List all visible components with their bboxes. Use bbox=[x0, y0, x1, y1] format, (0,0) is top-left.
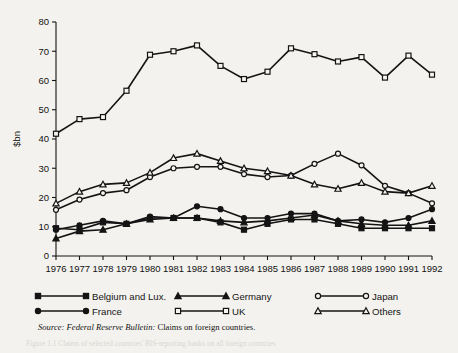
data-point-open-triangle bbox=[363, 308, 369, 314]
y-tick-label: 60 bbox=[38, 75, 49, 86]
source-note-rest: Claims on foreign countries. bbox=[157, 322, 255, 332]
legend-item-japan[interactable]: Japan bbox=[315, 291, 398, 302]
x-tick-label: 1984 bbox=[233, 263, 254, 274]
source-note-prefix: Source: bbox=[38, 322, 67, 332]
x-tick-label: 1987 bbox=[304, 263, 325, 274]
data-point-open-triangle bbox=[170, 155, 176, 161]
data-point-open-circle bbox=[336, 151, 341, 156]
data-point-open-circle bbox=[195, 164, 200, 169]
data-point-open-triangle bbox=[358, 180, 364, 186]
data-point-filled-triangle bbox=[335, 218, 341, 224]
data-point-open-square bbox=[101, 115, 106, 120]
data-point-open-circle bbox=[359, 163, 364, 168]
x-tick-label: 1979 bbox=[116, 263, 137, 274]
x-tick-label: 1990 bbox=[374, 263, 395, 274]
data-point-open-square bbox=[430, 72, 435, 77]
series-japan bbox=[54, 151, 435, 212]
legend-label: Belgium and Lux. bbox=[92, 291, 166, 302]
data-point-open-triangle bbox=[311, 181, 317, 187]
data-point-filled-square bbox=[35, 293, 40, 298]
y-tick-label: 40 bbox=[38, 133, 49, 144]
series-line bbox=[56, 154, 432, 210]
data-point-open-square bbox=[383, 75, 388, 80]
legend-label: Japan bbox=[372, 291, 398, 302]
legend-label: Others bbox=[372, 306, 401, 317]
y-tick-label: 70 bbox=[38, 46, 49, 57]
x-tick-label: 1976 bbox=[45, 263, 66, 274]
y-tick-label: 30 bbox=[38, 163, 49, 174]
data-point-open-square bbox=[54, 131, 59, 136]
data-point-open-circle bbox=[363, 293, 368, 298]
data-point-open-triangle bbox=[335, 186, 341, 192]
data-point-open-square bbox=[223, 308, 228, 313]
data-point-open-triangle bbox=[100, 181, 106, 187]
series-line bbox=[56, 45, 432, 133]
data-point-filled-square bbox=[83, 293, 88, 298]
series-uk bbox=[54, 43, 435, 136]
figure-caption: Figure 1.1 Claims of selected countries'… bbox=[26, 339, 436, 348]
y-tick-label: 80 bbox=[38, 16, 49, 27]
data-point-open-square bbox=[175, 308, 180, 313]
data-point-open-square bbox=[289, 46, 294, 51]
data-point-filled-circle bbox=[195, 204, 200, 209]
legend-label: France bbox=[92, 306, 122, 317]
data-point-filled-circle bbox=[83, 308, 88, 313]
data-point-open-square bbox=[242, 77, 247, 82]
y-tick-label: 50 bbox=[38, 104, 49, 115]
legend-item-others[interactable]: Others bbox=[315, 306, 401, 317]
x-tick-label: 1986 bbox=[280, 263, 301, 274]
data-point-open-square bbox=[77, 117, 82, 122]
data-point-open-circle bbox=[312, 161, 317, 166]
data-point-open-triangle bbox=[382, 189, 388, 195]
chart-figure: 01020304050607080$bn19761977197819791980… bbox=[0, 0, 458, 353]
data-point-open-circle bbox=[54, 207, 59, 212]
legend-label: UK bbox=[232, 306, 246, 317]
data-point-filled-circle bbox=[406, 215, 411, 220]
data-point-open-triangle bbox=[241, 165, 247, 171]
x-tick-label: 1991 bbox=[398, 263, 419, 274]
data-point-open-square bbox=[148, 52, 153, 57]
data-point-open-triangle bbox=[405, 190, 411, 196]
legend-item-germany[interactable]: Germany bbox=[175, 291, 272, 302]
line-chart-svg: 01020304050607080$bn19761977197819791980… bbox=[0, 0, 458, 353]
data-point-open-square bbox=[406, 53, 411, 58]
series-others bbox=[53, 151, 435, 206]
data-point-filled-square bbox=[430, 226, 435, 231]
source-note-publication: Federal Reserve Bulletin: bbox=[66, 322, 158, 332]
data-point-open-triangle bbox=[53, 200, 59, 206]
data-point-open-triangle bbox=[123, 180, 129, 186]
data-point-open-square bbox=[218, 63, 223, 68]
data-point-open-circle bbox=[430, 201, 435, 206]
data-point-open-square bbox=[336, 59, 341, 64]
legend-item-belgium-and-lux[interactable]: Belgium and Lux. bbox=[35, 291, 166, 302]
data-point-open-circle bbox=[265, 175, 270, 180]
data-point-open-square bbox=[195, 43, 200, 48]
data-point-open-triangle bbox=[429, 183, 435, 189]
x-tick-label: 1985 bbox=[257, 263, 278, 274]
data-point-open-triangle bbox=[315, 308, 321, 314]
x-tick-label: 1982 bbox=[186, 263, 207, 274]
data-point-filled-triangle bbox=[175, 293, 181, 299]
data-point-open-triangle bbox=[264, 168, 270, 174]
x-tick-label: 1988 bbox=[327, 263, 348, 274]
data-point-filled-triangle bbox=[53, 235, 59, 241]
x-tick-label: 1978 bbox=[92, 263, 113, 274]
data-point-open-circle bbox=[171, 166, 176, 171]
legend-item-france[interactable]: France bbox=[35, 306, 121, 317]
data-point-open-circle bbox=[315, 293, 320, 298]
x-tick-label: 1977 bbox=[69, 263, 90, 274]
x-tick-label: 1989 bbox=[351, 263, 372, 274]
data-point-filled-circle bbox=[430, 207, 435, 212]
data-point-filled-circle bbox=[218, 207, 223, 212]
data-point-open-circle bbox=[77, 197, 82, 202]
data-point-filled-square bbox=[242, 227, 247, 232]
legend-label: Germany bbox=[232, 291, 272, 302]
data-point-open-triangle bbox=[217, 158, 223, 164]
data-point-open-square bbox=[124, 88, 129, 93]
x-tick-label: 1981 bbox=[163, 263, 184, 274]
data-point-open-circle bbox=[101, 191, 106, 196]
data-point-filled-triangle bbox=[223, 293, 229, 299]
data-point-filled-circle bbox=[54, 227, 59, 232]
data-point-filled-triangle bbox=[405, 222, 411, 228]
legend-item-uk[interactable]: UK bbox=[175, 306, 246, 317]
